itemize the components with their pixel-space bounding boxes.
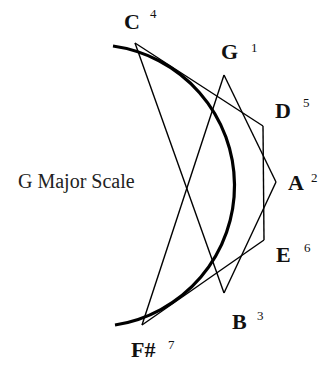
scale-degree-b: 3: [257, 308, 264, 323]
note-label-e: E: [276, 242, 291, 267]
note-label-g: G: [221, 39, 238, 64]
edge-a-b: [224, 182, 276, 293]
edge-d-e: [263, 126, 264, 240]
edge-c-d: [135, 43, 263, 126]
note-label-f-sharp: F#: [131, 337, 155, 362]
note-label-b: B: [232, 309, 247, 334]
scale-degree-f-sharp: 7: [168, 337, 175, 352]
heptagram-edges: [135, 43, 276, 325]
g-major-scale-diagram: G Major Scale C4G1D5A2E6B3F#7: [0, 0, 329, 376]
scale-degree-g: 1: [251, 40, 258, 55]
edge-b-c: [135, 43, 224, 293]
scale-degree-a: 2: [311, 170, 318, 185]
note-label-d: D: [275, 98, 291, 123]
edge-fsharp-g: [142, 75, 224, 325]
note-label-c: C: [124, 9, 140, 34]
diagram-title: G Major Scale: [18, 170, 135, 193]
note-label-a: A: [288, 170, 304, 195]
scale-degree-c: 4: [150, 6, 157, 21]
scale-degree-d: 5: [303, 95, 310, 110]
scale-degree-e: 6: [304, 240, 311, 255]
